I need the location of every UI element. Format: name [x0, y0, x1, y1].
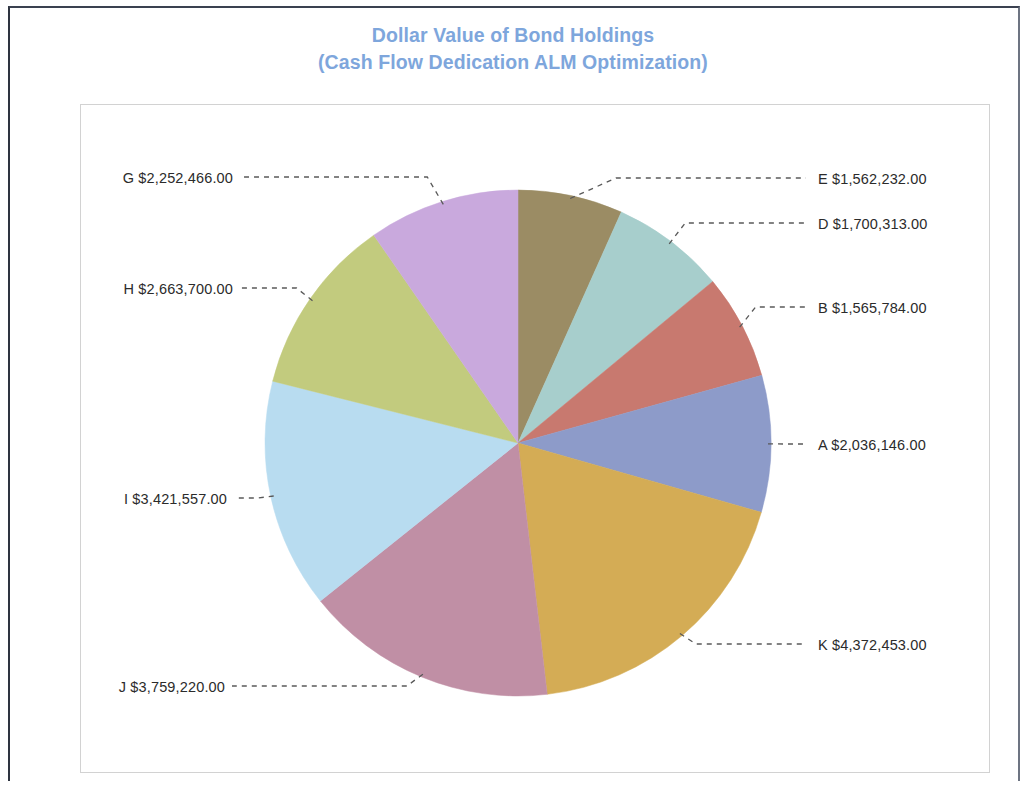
pie-label-I: I $3,421,557.00 [0, 491, 227, 507]
pie-label-A: A $2,036,146.00 [818, 437, 926, 453]
pie-label-H: H $2,663,700.00 [0, 281, 233, 297]
pie-label-G: G $2,252,466.00 [0, 170, 233, 186]
chart-title-line-2: (Cash Flow Dedication ALM Optimization) [0, 49, 1026, 76]
pie-label-E: E $1,562,232.00 [818, 171, 927, 187]
chart-title-line-1: Dollar Value of Bond Holdings [372, 24, 654, 46]
pie-label-D: D $1,700,313.00 [818, 216, 927, 232]
pie-label-J: J $3,759,220.00 [0, 679, 225, 695]
pie-label-B: B $1,565,784.00 [818, 300, 927, 316]
pie-label-K: K $4,372,453.00 [818, 637, 927, 653]
chart-title: Dollar Value of Bond Holdings (Cash Flow… [0, 22, 1026, 76]
